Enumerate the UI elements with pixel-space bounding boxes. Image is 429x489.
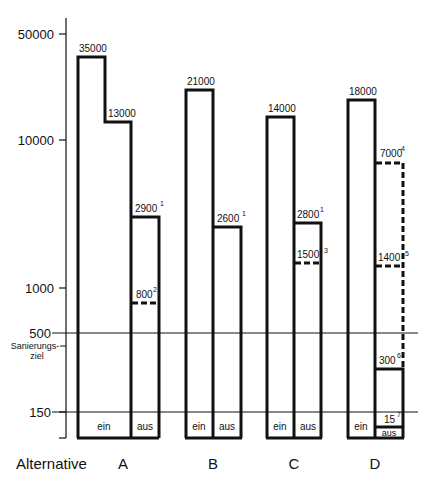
bar-B-aus-label: aus: [219, 421, 235, 432]
footnote-C-dash: 3: [324, 247, 328, 254]
bar-C-aus-label: aus: [300, 421, 316, 432]
y-ticks: [59, 34, 66, 438]
bar-C-ein: [267, 117, 294, 438]
reference-label-ziel: ziel: [30, 351, 44, 361]
label-A-dash: 800: [136, 289, 153, 300]
bar-B-ein-label: ein: [192, 421, 205, 432]
bar-group-C: [266, 117, 322, 438]
label-D-aus: 300: [379, 355, 396, 366]
bar-C-ein-label: ein: [273, 421, 286, 432]
footnote-D-dash-top: 4: [401, 145, 405, 152]
label-D-ein: 18000: [349, 86, 377, 97]
reference-label-sanierungs: Sanierungs-: [11, 341, 60, 351]
y-tick-150: 150: [29, 405, 51, 420]
footnote-D-box: 7: [397, 411, 401, 418]
label-A-step: 13000: [108, 108, 136, 119]
bar-group-B: [185, 90, 242, 438]
label-C-aus: 2800: [297, 209, 320, 220]
label-D-box: 15: [384, 414, 396, 425]
y-tick-1000: 1000: [25, 281, 54, 296]
footnote-D-aus: 6: [397, 352, 401, 359]
footnote-A-dash: 2: [153, 286, 157, 293]
x-label-B: B: [208, 455, 218, 472]
bar-A-aus: [131, 217, 159, 438]
bar-A-aus-label: aus: [137, 421, 153, 432]
label-B-aus: 2600: [217, 213, 240, 224]
label-D-dash-mid: 1400: [378, 252, 401, 263]
bar-B-ein: [186, 90, 213, 438]
chart: 50000 10000 1000 500 150 Sanierungs- zie…: [0, 0, 429, 489]
y-tick-50000: 50000: [18, 27, 54, 42]
bar-D-ein: [348, 100, 375, 438]
x-label-A: A: [118, 455, 128, 472]
footnote-B-aus: 1: [242, 210, 246, 217]
bar-D-ein-label: ein: [354, 421, 367, 432]
bar-D-aus-label: aus: [382, 428, 397, 438]
x-label-C: C: [289, 455, 300, 472]
y-tick-500: 500: [29, 326, 51, 341]
footnote-A-aus: 1: [160, 200, 164, 207]
footnote-D-dash-mid: 5: [405, 250, 409, 257]
x-axis-title: Alternative: [16, 455, 87, 472]
label-B-ein: 21000: [187, 76, 215, 87]
footnote-C-aus: 1: [320, 206, 324, 213]
label-C-ein: 14000: [268, 103, 296, 114]
label-D-dash-top: 7000: [380, 148, 403, 159]
label-C-dash: 1500: [297, 249, 320, 260]
label-A-aus: 2900: [135, 203, 158, 214]
bar-A-ein-label: ein: [97, 421, 110, 432]
x-label-D: D: [370, 455, 381, 472]
label-A-ein: 35000: [79, 43, 107, 54]
y-tick-10000: 10000: [18, 133, 54, 148]
